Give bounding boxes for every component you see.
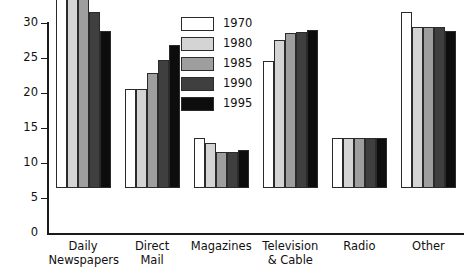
category-label: Radio [325,240,394,254]
bar-group-bars [125,0,180,188]
legend-item-1970: 1970 [181,14,252,33]
bar-1990-other [434,27,445,188]
legend-swatch-1970 [181,17,214,31]
bar-group-bars [56,0,111,188]
chart-legend: 19701980198519901995 [181,14,252,114]
bar-1985-direct-mail [147,73,158,188]
bar-group [332,0,387,188]
category-label: Daily Newspapers [49,240,118,267]
bar-1980-other [412,27,423,188]
bar-group [401,0,456,188]
bar-1985-radio [354,138,365,188]
bar-1995-other [445,31,456,188]
legend-label-1995: 1995 [223,98,252,110]
legend-item-1995: 1995 [181,94,252,113]
bar-group [263,0,318,188]
legend-swatch-1985 [181,57,214,71]
bar-1980-magazines [205,143,216,188]
bar-1995-radio [376,138,387,188]
bar-1985-television---cable [285,33,296,188]
legend-item-1980: 1980 [181,34,252,53]
legend-label-1990: 1990 [223,78,252,90]
legend-label-1980: 1980 [223,38,252,50]
bar-1990-daily-newspapers [89,12,100,188]
bar-1970-daily-newspapers [56,0,67,188]
bar-group-bars [332,0,387,188]
legend-item-1990: 1990 [181,74,252,93]
legend-label-1970: 1970 [223,18,252,30]
bar-1990-radio [365,138,376,188]
bar-1980-radio [343,138,354,188]
bar-1970-direct-mail [125,89,136,188]
bar-1990-television---cable [296,32,307,188]
bar-chart: 051015202530 Daily NewspapersDirect Mail… [0,0,475,280]
legend-swatch-1995 [181,97,214,111]
bar-group-bars [263,0,318,188]
category-label: Magazines [187,240,256,254]
bar-1985-magazines [216,152,227,188]
bar-1995-magazines [238,150,249,189]
legend-swatch-1980 [181,37,214,51]
bar-1990-magazines [227,152,238,188]
bar-1985-daily-newspapers [78,0,89,188]
bar-1985-other [423,27,434,188]
bar-1995-direct-mail [169,45,180,189]
bar-1970-magazines [194,138,205,188]
bar-1980-direct-mail [136,89,147,188]
category-label: Direct Mail [118,240,187,267]
bar-1970-radio [332,138,343,188]
legend-label-1985: 1985 [223,58,252,70]
bar-1995-daily-newspapers [100,31,111,189]
bar-group [56,0,111,188]
bar-group-bars [401,0,456,188]
bar-1970-television---cable [263,61,274,188]
bar-1980-daily-newspapers [67,0,78,188]
bar-group [125,0,180,188]
bar-1995-television---cable [307,30,318,188]
bar-1990-direct-mail [158,60,169,188]
bar-1970-other [401,12,412,188]
category-label: Other [394,240,463,254]
bar-1980-television---cable [274,40,285,188]
category-label: Television & Cable [256,240,325,267]
legend-item-1985: 1985 [181,54,252,73]
legend-swatch-1990 [181,77,214,91]
